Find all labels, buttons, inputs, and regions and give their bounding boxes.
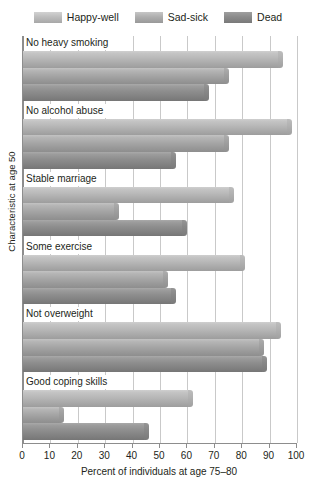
bar-stack bbox=[23, 119, 296, 169]
bar-groups: No heavy smokingNo alcohol abuseStable m… bbox=[23, 36, 296, 443]
bar-row bbox=[23, 68, 296, 85]
bar-stack bbox=[23, 390, 296, 440]
legend-swatch-dead-icon bbox=[224, 12, 252, 23]
bar-group: Not overweight bbox=[23, 307, 296, 375]
x-tick-label-10: 10 bbox=[44, 450, 55, 462]
bar-happy-well bbox=[23, 187, 234, 204]
bar-row bbox=[23, 390, 296, 407]
bar-end-cap bbox=[188, 390, 193, 407]
bar-body bbox=[23, 423, 144, 440]
x-tick-label-70: 70 bbox=[208, 450, 219, 462]
x-tick-label-60: 60 bbox=[181, 450, 192, 462]
x-tick-10 bbox=[49, 443, 50, 448]
x-tick-70 bbox=[214, 443, 215, 448]
bar-end-cap bbox=[171, 288, 176, 305]
x-axis-ticks bbox=[22, 443, 296, 449]
bar-row bbox=[23, 356, 296, 373]
bar-sad-sick bbox=[23, 203, 119, 220]
bar-body bbox=[23, 203, 114, 220]
bar-end-cap bbox=[240, 255, 245, 272]
bar-body bbox=[23, 135, 224, 152]
x-tick-label-20: 20 bbox=[71, 450, 82, 462]
x-tick-100 bbox=[296, 443, 297, 448]
bar-end-cap bbox=[224, 68, 229, 85]
bar-end-cap bbox=[204, 84, 209, 101]
bar-stack bbox=[23, 255, 296, 305]
legend-item-dead: Dead bbox=[224, 12, 282, 23]
bar-group: Stable marriage bbox=[23, 172, 296, 240]
bar-happy-well bbox=[23, 255, 245, 272]
x-axis-tick-labels: 0102030405060708090100 bbox=[22, 450, 296, 464]
bar-body bbox=[23, 84, 204, 101]
x-axis-title: Percent of individuals at age 75–80 bbox=[22, 466, 296, 477]
bar-happy-well bbox=[23, 51, 283, 68]
y-axis-title: Characteristic at age 50 bbox=[6, 122, 17, 282]
bar-dead bbox=[23, 84, 209, 101]
bar-dead bbox=[23, 288, 176, 305]
x-tick-label-100: 100 bbox=[288, 450, 305, 462]
bar-end-cap bbox=[287, 119, 292, 136]
x-tick-label-0: 0 bbox=[19, 450, 25, 462]
bar-row bbox=[23, 135, 296, 152]
bar-row bbox=[23, 423, 296, 440]
grid-line-100 bbox=[297, 36, 298, 443]
x-tick-80 bbox=[241, 443, 242, 448]
bar-body bbox=[23, 390, 188, 407]
legend-swatch-happy-well-icon bbox=[34, 12, 62, 23]
bar-group: No alcohol abuse bbox=[23, 104, 296, 172]
bar-group-label: No heavy smoking bbox=[25, 36, 111, 50]
bar-dead bbox=[23, 423, 149, 440]
x-tick-30 bbox=[104, 443, 105, 448]
legend-item-sad-sick: Sad-sick bbox=[135, 12, 208, 23]
bar-group: Good coping skills bbox=[23, 375, 296, 443]
x-tick-40 bbox=[132, 443, 133, 448]
bar-happy-well bbox=[23, 390, 193, 407]
legend-label-happy-well: Happy-well bbox=[67, 12, 119, 23]
bar-end-cap bbox=[262, 356, 267, 373]
bar-row bbox=[23, 220, 296, 237]
bar-row bbox=[23, 339, 296, 356]
bar-end-cap bbox=[163, 271, 168, 288]
bar-dead bbox=[23, 356, 267, 373]
bar-end-cap bbox=[224, 135, 229, 152]
x-tick-label-30: 30 bbox=[99, 450, 110, 462]
legend-item-happy-well: Happy-well bbox=[34, 12, 119, 23]
bar-row bbox=[23, 322, 296, 339]
bar-row bbox=[23, 271, 296, 288]
bar-happy-well bbox=[23, 119, 292, 136]
bar-body bbox=[23, 68, 224, 85]
bar-sad-sick bbox=[23, 271, 168, 288]
bar-body bbox=[23, 220, 182, 237]
bar-body bbox=[23, 322, 276, 339]
x-tick-60 bbox=[186, 443, 187, 448]
bar-end-cap bbox=[144, 423, 149, 440]
bar-group-label: No alcohol abuse bbox=[25, 104, 106, 118]
bar-body bbox=[23, 339, 259, 356]
bar-stack bbox=[23, 322, 296, 372]
bar-sad-sick bbox=[23, 68, 229, 85]
bar-body bbox=[23, 288, 171, 305]
bar-end-cap bbox=[59, 407, 64, 424]
bar-end-cap bbox=[229, 187, 234, 204]
x-tick-0 bbox=[22, 443, 23, 448]
bar-sad-sick bbox=[23, 339, 264, 356]
bar-group: No heavy smoking bbox=[23, 36, 296, 104]
bar-row bbox=[23, 407, 296, 424]
bar-body bbox=[23, 152, 171, 169]
bar-end-cap bbox=[259, 339, 264, 356]
bar-body bbox=[23, 187, 229, 204]
bar-body bbox=[23, 119, 287, 136]
bar-group-label: Good coping skills bbox=[25, 375, 110, 389]
bar-row bbox=[23, 119, 296, 136]
bar-body bbox=[23, 255, 240, 272]
bar-row bbox=[23, 255, 296, 272]
x-tick-50 bbox=[159, 443, 160, 448]
legend-label-dead: Dead bbox=[257, 12, 282, 23]
bar-row bbox=[23, 187, 296, 204]
bar-dead bbox=[23, 220, 187, 237]
bar-group: Some exercise bbox=[23, 240, 296, 308]
bar-group-label: Some exercise bbox=[25, 240, 95, 254]
bar-end-cap bbox=[114, 203, 119, 220]
bar-end-cap bbox=[276, 322, 281, 339]
bar-row bbox=[23, 84, 296, 101]
